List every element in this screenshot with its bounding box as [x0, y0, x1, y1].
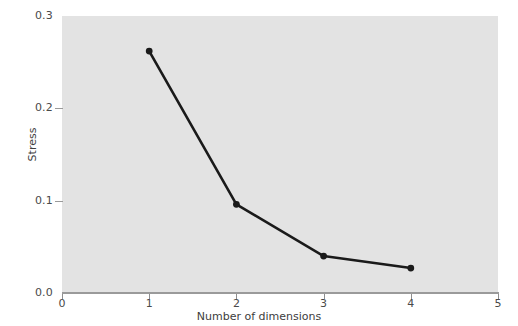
x-tick-label: 1 — [139, 297, 159, 310]
y-tick-label-wrap: 0.3 — [0, 10, 53, 21]
data-point — [233, 201, 240, 208]
y-axis-title: Stress — [26, 105, 39, 185]
plot-area — [62, 16, 498, 293]
x-tick-label: 5 — [488, 297, 508, 310]
data-point — [407, 265, 414, 272]
series-line-stress — [149, 51, 411, 268]
y-tick-label: 0.0 — [17, 287, 53, 298]
data-point — [146, 48, 153, 55]
x-tick-label: 0 — [52, 297, 72, 310]
y-tick-label: 0.3 — [17, 10, 53, 21]
line-series-svg — [62, 16, 498, 293]
y-tick-mark — [55, 108, 63, 109]
y-tick-label-wrap: 0.1 — [0, 195, 53, 206]
x-tick-label: 3 — [314, 297, 334, 310]
y-tick-label: 0.1 — [17, 195, 53, 206]
series-markers — [146, 48, 414, 272]
data-point — [320, 253, 327, 260]
x-axis-line — [62, 292, 499, 294]
x-tick-label: 4 — [401, 297, 421, 310]
x-axis-title: Number of dimensions — [0, 310, 518, 323]
y-tick-label-wrap: 0.0 — [0, 287, 53, 298]
y-tick-mark — [55, 201, 63, 202]
chart-figure: 012345 0.00.10.20.3 Number of dimensions… — [0, 0, 518, 326]
x-tick-label: 2 — [226, 297, 246, 310]
